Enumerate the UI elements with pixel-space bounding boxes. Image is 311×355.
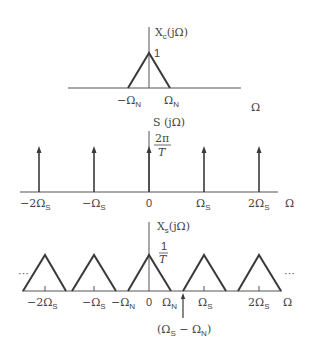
middle-ylabel: S (jΩ) (153, 116, 185, 129)
top-xlabel: Ω (251, 101, 260, 114)
top-plot: Xc(jΩ) 1 −ΩN ΩN Ω (68, 26, 260, 114)
top-peak-label: 1 (154, 47, 160, 59)
bottom-amp-num: 1 (161, 240, 167, 252)
middle-tick-2omega-s: 2ΩS (248, 197, 269, 212)
middle-tick-neg-omega-s: −ΩS (82, 197, 106, 212)
arrow-up-icon (181, 293, 185, 299)
arrow-up-icon (257, 146, 262, 153)
middle-tick-neg-2omega-s: −2ΩS (20, 197, 51, 212)
spectrum-replica (183, 255, 226, 291)
bottom-tick-2omega-s: 2ΩS (248, 296, 269, 311)
bottom-tick-neg-omega-s: −ΩS (82, 296, 106, 311)
sampling-spectrum-diagram: Xc(jΩ) 1 −ΩN ΩN Ω S (jΩ) 2π T −2ΩS −ΩS 0… (0, 0, 311, 355)
spectrum-replica (238, 255, 281, 291)
spectrum-replica (23, 255, 66, 291)
bottom-tick-omega-s: ΩS (198, 296, 212, 311)
bottom-xlabel: Ω (283, 296, 292, 309)
top-tick-omega-n: ΩN (164, 94, 179, 109)
arrow-up-icon (37, 146, 42, 153)
bottom-ylabel: Xs(jΩ) (157, 220, 190, 235)
bottom-plot: ··· ··· Xs(jΩ) 1 T −2ΩS −ΩS −ΩN 0 ΩN ΩS … (18, 220, 295, 338)
middle-tick-zero: 0 (146, 197, 152, 209)
ellipsis-left: ··· (18, 267, 29, 279)
spectrum-replica (72, 255, 116, 291)
ellipsis-right: ··· (284, 267, 295, 279)
arrow-up-icon (147, 146, 152, 153)
replicated-spectra (23, 255, 281, 291)
bottom-amp-den: T (159, 253, 168, 266)
bottom-tick-neg-2omega-s: −2ΩS (27, 296, 58, 311)
tick-marks (45, 286, 259, 291)
middle-xlabel: Ω (285, 197, 294, 210)
bottom-tick-neg-omega-n: −ΩN (111, 296, 135, 311)
top-ylabel: Xc(jΩ) (155, 26, 188, 41)
arrow-up-icon (92, 146, 97, 153)
middle-amp-den: T (158, 146, 167, 159)
impulse-train (37, 146, 262, 192)
aliasing-gap-annotation: (ΩS − ΩN) (157, 323, 211, 338)
middle-amp-num: 2π (155, 132, 169, 145)
middle-tick-omega-s: ΩS (196, 197, 210, 212)
middle-plot: S (jΩ) 2π T −2ΩS −ΩS 0 ΩS 2ΩS Ω (20, 116, 294, 212)
bottom-tick-zero: 0 (146, 296, 152, 308)
arrow-up-icon (202, 146, 207, 153)
bottom-tick-omega-n: ΩN (162, 296, 177, 311)
top-tick-neg-omega-n: −ΩN (117, 94, 141, 109)
